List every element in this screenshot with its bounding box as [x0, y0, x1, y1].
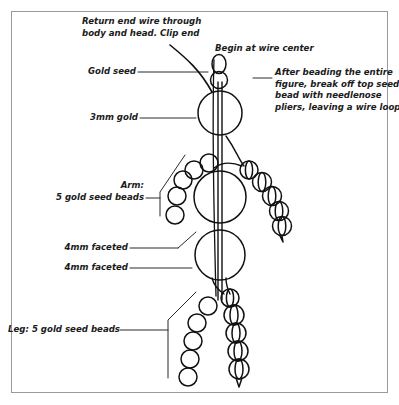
leg-bead [224, 305, 244, 325]
label-leg: Leg: 5 gold seed beads [8, 324, 118, 336]
leg-bead [226, 323, 246, 343]
arm-bead-string [240, 161, 292, 242]
leg-bead [228, 341, 248, 361]
leg-bead [229, 359, 249, 379]
leg-bead-string [221, 289, 249, 387]
arm-callout-bead [166, 206, 184, 224]
leg-callout-bead [188, 314, 206, 332]
return-wire-curve [170, 45, 212, 92]
chest-4mm-faceted-bead [194, 171, 246, 223]
arm-bead [253, 173, 272, 192]
label-break-off-note: After beading the entire figure, break o… [275, 67, 387, 113]
arm-callout-bead [174, 171, 192, 189]
leg-callout-beads [179, 297, 217, 386]
arm-wire-tip [280, 236, 283, 242]
label-gold-seed: Gold seed [18, 66, 136, 78]
label-4mm-faceted-lower: 4mm faceted [16, 262, 128, 274]
head-3mm-gold-bead [198, 91, 242, 135]
arm-callout-beads [166, 154, 218, 224]
return-wire-through-body [213, 60, 216, 296]
center-wire [218, 82, 222, 300]
leg-bead [221, 289, 239, 307]
leg-callout-bead [199, 297, 217, 315]
leg-callout-bead [181, 350, 199, 368]
beading-diagram-figure: Return end wire through body and head. C… [0, 0, 399, 405]
leg-callout-bead [184, 332, 202, 350]
label-arm: Arm: 5 gold seed beads [20, 180, 144, 203]
leg-callout-bracket [168, 292, 196, 378]
leader-4mm-upper-hook [178, 232, 196, 248]
leg-callout-bead [179, 368, 197, 386]
arm-wire-upper [226, 136, 244, 166]
label-begin-at-wire-center: Begin at wire center [215, 43, 385, 55]
arm-callout-bead [200, 154, 218, 172]
label-4mm-faceted-upper: 4mm faceted [16, 242, 128, 254]
label-3mm-gold: 3mm gold [18, 112, 138, 124]
arm-bead [263, 187, 282, 206]
label-return-end-wire: Return end wire through body and head. C… [82, 16, 262, 39]
hip-4mm-faceted-bead [195, 230, 245, 280]
